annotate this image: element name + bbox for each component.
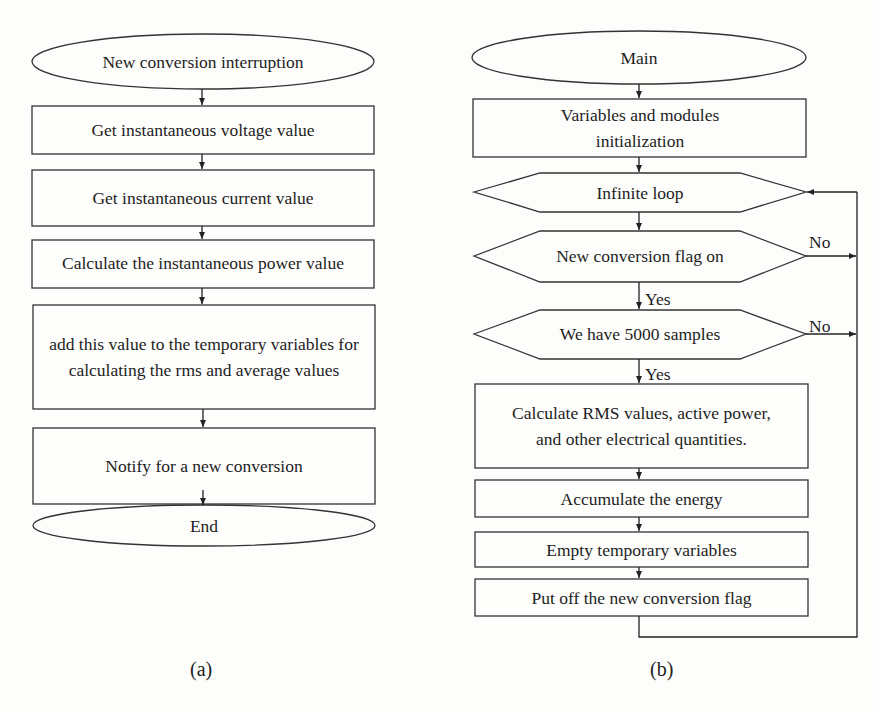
node-get-voltage: Get instantaneous voltage value [32,106,374,154]
node-end: End [33,505,375,546]
node-put-off-flag: Put off the new conversion flag [475,579,808,616]
edge-label-yes-1: Yes [645,289,670,309]
node-5000-samples-decision: We have 5000 samples [550,307,730,361]
node-accumulate-energy: Accumulate the energy [475,480,808,517]
node-init: Variables and modules initialization [530,99,750,157]
node-new-conversion-interruption: New conversion interruption [32,34,374,89]
node-calc-rms: Calculate RMS values, active power, and … [500,384,783,468]
edge-label-no-2: No [809,316,830,336]
edge-label-no-1: No [809,232,830,252]
caption-b: (b) [650,658,673,681]
node-get-current: Get instantaneous current value [32,170,374,226]
node-add-temp-vars: add this value to the temporary variable… [40,305,368,409]
caption-a: (a) [190,658,212,681]
node-flag-on-decision: New conversion flag on [540,229,740,283]
edge-label-yes-2: Yes [645,364,670,384]
node-calc-power: Calculate the instantaneous power value [42,236,364,290]
node-main: Main [472,31,806,84]
node-notify-conversion: Notify for a new conversion [33,428,375,504]
node-empty-temp-vars: Empty temporary variables [475,532,808,567]
node-infinite-loop: Infinite loop [474,173,806,212]
